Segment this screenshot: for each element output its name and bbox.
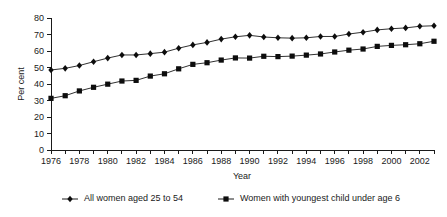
data-point-square	[134, 78, 139, 83]
x-tick-label: 1992	[268, 156, 288, 166]
data-point-square	[233, 55, 238, 60]
legend-label: All women aged 25 to 54	[84, 193, 183, 203]
x-tick-label: 1984	[154, 156, 174, 166]
x-axis: 1976197819801982198419861988199019921994…	[41, 150, 434, 166]
data-point-square	[176, 66, 181, 71]
data-point-square	[403, 42, 408, 47]
data-point-square	[91, 85, 96, 90]
data-point-square	[219, 57, 224, 62]
line-chart-figure: 01020304050607080 1976197819801982198419…	[0, 0, 447, 217]
data-point-square	[105, 82, 110, 87]
data-point-diamond	[346, 31, 351, 38]
data-point-diamond	[162, 49, 167, 56]
legend-entry-2[interactable]: Women with youngest child under age 6	[218, 193, 400, 203]
data-point-square	[389, 43, 394, 48]
data-point-square	[204, 60, 209, 65]
series-2	[48, 39, 436, 101]
legend-label: Women with youngest child under age 6	[240, 193, 400, 203]
data-point-diamond	[119, 52, 124, 59]
y-axis-ticks: 01020304050607080	[34, 13, 51, 155]
data-point-diamond	[77, 62, 82, 69]
data-point-square	[261, 54, 266, 59]
legend-marker-diamond	[67, 196, 72, 203]
data-point-diamond	[389, 25, 394, 32]
data-point-diamond	[233, 34, 238, 41]
y-tick-label: 70	[34, 30, 44, 40]
data-point-diamond	[133, 52, 138, 59]
data-point-square	[304, 53, 309, 58]
series-line	[51, 41, 434, 98]
x-tick-label: 1988	[211, 156, 231, 166]
data-point-square	[48, 96, 53, 101]
data-point-square	[318, 51, 323, 56]
chart-canvas: 01020304050607080 1976197819801982198419…	[0, 0, 447, 217]
data-point-diamond	[318, 33, 323, 40]
plot-area	[48, 22, 436, 100]
legend-marker-square	[223, 196, 228, 201]
data-point-square	[375, 44, 380, 49]
x-tick-label: 1986	[183, 156, 203, 166]
data-point-square	[190, 62, 195, 67]
data-point-diamond	[431, 22, 436, 29]
y-tick-label: 80	[34, 13, 44, 23]
data-point-diamond	[105, 55, 110, 62]
data-point-diamond	[91, 58, 96, 65]
data-point-square	[417, 41, 422, 46]
data-point-square	[77, 88, 82, 93]
data-point-square	[119, 78, 124, 83]
legend-entry-1[interactable]: All women aged 25 to 54	[62, 193, 183, 203]
data-point-diamond	[304, 35, 309, 42]
data-point-diamond	[417, 23, 422, 30]
data-point-diamond	[148, 50, 153, 57]
data-point-diamond	[204, 39, 209, 46]
y-axis: 01020304050607080	[34, 13, 51, 155]
data-point-diamond	[219, 36, 224, 43]
x-tick-label: 1978	[69, 156, 89, 166]
x-tick-label: 1980	[98, 156, 118, 166]
x-axis-title: Year	[233, 171, 251, 181]
x-axis-ticks: 1976197819801982198419861988199019921994…	[41, 150, 434, 166]
data-point-diamond	[176, 45, 181, 52]
data-point-square	[360, 46, 365, 51]
data-point-diamond	[261, 34, 266, 41]
data-point-diamond	[247, 32, 252, 39]
x-tick-label: 1976	[41, 156, 61, 166]
y-tick-label: 50	[34, 63, 44, 73]
x-tick-label: 1996	[325, 156, 345, 166]
data-point-diamond	[190, 42, 195, 49]
data-point-diamond	[360, 29, 365, 36]
y-tick-label: 10	[34, 129, 44, 139]
data-point-square	[332, 49, 337, 54]
data-point-square	[275, 54, 280, 59]
data-point-diamond	[375, 27, 380, 34]
x-tick-label: 1998	[353, 156, 373, 166]
y-tick-label: 0	[39, 145, 44, 155]
data-point-square	[431, 39, 436, 44]
x-tick-label: 1990	[240, 156, 260, 166]
y-tick-label: 40	[34, 79, 44, 89]
data-point-square	[148, 73, 153, 78]
x-tick-label: 1994	[296, 156, 316, 166]
data-point-square	[162, 71, 167, 76]
data-point-diamond	[62, 65, 67, 72]
data-point-diamond	[289, 35, 294, 42]
x-tick-label: 2000	[381, 156, 401, 166]
data-point-diamond	[275, 35, 280, 42]
x-tick-label: 2002	[410, 156, 430, 166]
data-point-square	[290, 54, 295, 59]
y-tick-label: 60	[34, 46, 44, 56]
y-tick-label: 30	[34, 96, 44, 106]
data-point-diamond	[332, 33, 337, 40]
y-axis-title: Per cent	[16, 67, 26, 101]
data-point-square	[346, 48, 351, 53]
data-point-square	[247, 55, 252, 60]
chart-legend: All women aged 25 to 54Women with younge…	[62, 193, 400, 203]
data-point-diamond	[403, 25, 408, 32]
y-tick-label: 20	[34, 112, 44, 122]
x-tick-label: 1982	[126, 156, 146, 166]
data-point-square	[63, 93, 68, 98]
